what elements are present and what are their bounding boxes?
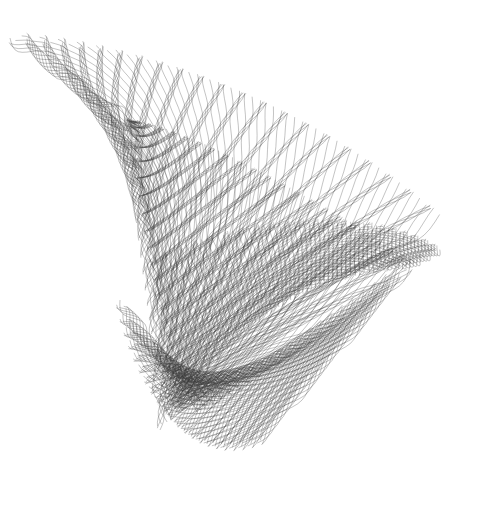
string-art-figure (0, 0, 482, 512)
